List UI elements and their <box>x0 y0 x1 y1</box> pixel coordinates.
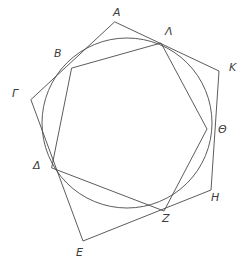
vertex-label-a: A <box>113 7 121 18</box>
vertex-label-z: Z <box>162 213 170 224</box>
vertex-label-k: K <box>229 62 236 73</box>
geometry-figure: A Λ B K Γ Θ Δ H Z E <box>0 0 251 272</box>
vertex-label-lambda: Λ <box>165 26 173 37</box>
inscribed-circle <box>42 38 212 208</box>
figure-canvas <box>0 0 251 272</box>
vertex-label-h: H <box>211 192 219 203</box>
vertex-label-gamma: Γ <box>12 88 18 99</box>
vertex-label-theta: Θ <box>218 124 227 135</box>
vertex-label-b: B <box>54 48 62 59</box>
vertex-label-e: E <box>76 247 83 258</box>
vertex-label-delta: Δ <box>33 160 41 171</box>
